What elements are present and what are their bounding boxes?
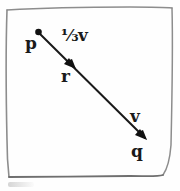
label-one-third-v: ⅓v xyxy=(61,27,87,44)
frame-right-edge xyxy=(163,8,172,175)
label-point-r: r xyxy=(61,68,70,85)
sketch-canvas: p r q v ⅓v xyxy=(0,0,180,191)
vector-diagram-svg xyxy=(0,0,180,191)
frame-top-edge xyxy=(7,7,172,10)
label-vector-v: v xyxy=(130,108,140,125)
label-point-q: q xyxy=(131,143,143,160)
frame-bottom-edge xyxy=(9,175,163,177)
label-point-p: p xyxy=(25,35,37,52)
page-edge-smudge xyxy=(8,182,34,187)
frame-left-edge xyxy=(6,10,9,177)
label-one-third-v-text: ⅓v xyxy=(61,27,87,44)
